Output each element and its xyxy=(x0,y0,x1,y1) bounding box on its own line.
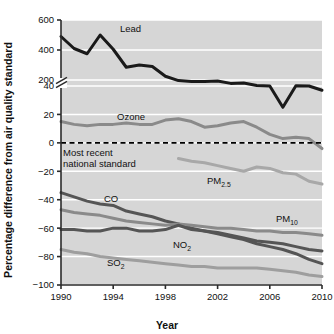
x-tick-label: 2002 xyxy=(207,291,228,302)
air-quality-trend-chart: 60040020040200−20−40−60−80−100 199019941… xyxy=(0,0,334,334)
standard-annotation-line1: Most recent xyxy=(63,147,113,158)
standard-annotation-line2: national standard xyxy=(63,158,136,169)
y-tick-label: −60 xyxy=(38,223,54,234)
y-tick-label: 40 xyxy=(43,80,54,91)
series-label-ozone: Ozone xyxy=(117,111,145,122)
y-axis-break-symbol xyxy=(56,77,67,88)
figure-root: 60040020040200−20−40−60−80−100 199019941… xyxy=(0,0,334,334)
y-tick-label: −80 xyxy=(38,251,54,262)
y-tick-label: 20 xyxy=(43,109,54,120)
y-tick-label: 0 xyxy=(49,137,54,148)
series-label-lead: Lead xyxy=(120,23,141,34)
y-tick-label: 600 xyxy=(38,14,54,25)
x-tick-label: 1990 xyxy=(50,291,71,302)
series-label-co: CO xyxy=(104,193,118,204)
y-tick-label: −20 xyxy=(38,166,54,177)
y-tick-label: −40 xyxy=(38,194,54,205)
y-tick-label: −100 xyxy=(33,279,54,290)
x-axis-title: Year xyxy=(156,319,178,331)
y-tick-label: 400 xyxy=(38,44,54,55)
x-tick-label: 2010 xyxy=(311,291,332,302)
y-axis-title: Percentage difference from air quality s… xyxy=(2,42,14,278)
x-tick-label: 2006 xyxy=(259,291,280,302)
x-tick-label: 1994 xyxy=(103,291,124,302)
x-tick-label: 1998 xyxy=(155,291,176,302)
